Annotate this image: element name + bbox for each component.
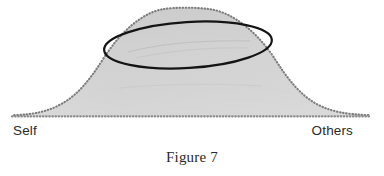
axis-label-others: Others	[312, 124, 353, 138]
figure-container: Self Others Figure 7	[0, 0, 384, 176]
figure-caption: Figure 7	[0, 150, 384, 165]
axis-label-self: Self	[13, 124, 37, 138]
